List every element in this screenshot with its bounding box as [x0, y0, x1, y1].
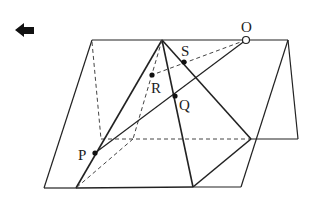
label-Q: Q	[179, 97, 190, 113]
left-plane-hidden-edge	[92, 42, 101, 139]
point-S	[181, 59, 186, 64]
label-R: R	[151, 80, 161, 96]
pyramid-edges	[76, 40, 251, 188]
point-Q	[172, 93, 177, 98]
label-O: O	[241, 19, 252, 35]
left-plane	[44, 40, 162, 188]
line-O-P	[95, 40, 246, 153]
pyramid-diagram: O S R Q P	[0, 0, 322, 207]
label-P: P	[78, 147, 86, 163]
label-S: S	[181, 43, 189, 59]
point-P	[92, 150, 97, 155]
point-O	[243, 37, 250, 44]
point-R	[149, 72, 154, 77]
left-arrow-icon[interactable]	[15, 23, 34, 37]
